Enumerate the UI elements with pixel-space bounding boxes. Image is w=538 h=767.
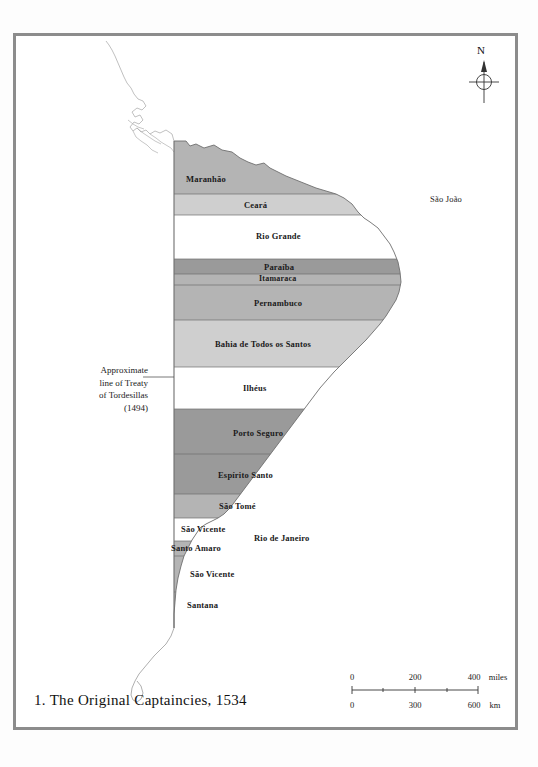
scale-miles-tick-200: 200	[409, 672, 422, 682]
scale-bar: 0 200 400 miles 0 300 600 km	[350, 672, 478, 712]
label-ilheus: Ilhéus	[243, 383, 266, 393]
label-sao-tome: São Tomé	[219, 501, 256, 511]
label-rio-de-janeiro: Rio de Janeiro	[254, 533, 310, 543]
label-porto-seguro: Porto Seguro	[233, 428, 283, 438]
scale-km-tick-300: 300	[409, 700, 422, 710]
annotation-line-2: line of Treaty	[100, 378, 149, 388]
tordesillas-annotation: Approximate line of Treaty of Tordesilla…	[48, 364, 148, 414]
scale-miles-tick-400: 400	[468, 672, 481, 682]
label-sao-vicente-south: São Vicente	[190, 569, 234, 579]
label-sao-joao: São João	[430, 194, 462, 204]
label-pernambuco: Pernambuco	[254, 298, 302, 308]
label-maranhao: Maranhão	[186, 174, 226, 184]
label-santana: Santana	[187, 600, 218, 610]
annotation-line-1: Approximate	[101, 365, 149, 375]
compass-north-label: N	[477, 44, 485, 56]
label-sao-vicente-north: São Vicente	[181, 524, 225, 534]
label-rio-grande: Rio Grande	[256, 231, 301, 241]
scale-miles-unit: miles	[489, 672, 507, 682]
label-bahia: Bahia de Todos os Santos	[215, 339, 311, 349]
scale-km-tick-600: 600	[468, 700, 481, 710]
label-paraiba: Paraíba	[264, 262, 294, 272]
scale-km-unit: km	[490, 700, 501, 710]
label-itamaraca: Itamaraca	[259, 274, 296, 283]
map-page: N Maranhão Ceará Rio Grande Paraíba Itam…	[0, 0, 538, 767]
label-santo-amaro: Santo Amaro	[171, 543, 221, 553]
scale-miles-tick-0: 0	[350, 672, 354, 682]
figure-title: 1. The Original Captaincies, 1534	[34, 692, 247, 709]
scale-row-miles: 0 200 400 miles	[350, 672, 478, 684]
scale-km-tick-0: 0	[350, 700, 354, 710]
annotation-line-3: of Tordesillas	[99, 390, 148, 400]
annotation-year: (1494)	[48, 402, 148, 415]
label-espirito-santo: Espírito Santo	[218, 470, 273, 480]
label-ceara: Ceará	[244, 200, 267, 210]
scale-row-km: 0 300 600 km	[350, 700, 478, 712]
